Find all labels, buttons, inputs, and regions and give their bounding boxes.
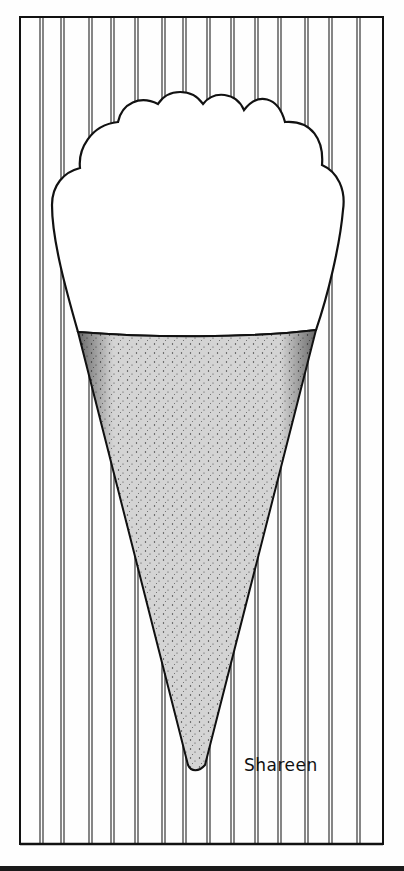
artist-signature: Shareen bbox=[244, 755, 318, 775]
bottom-border-bar bbox=[0, 866, 404, 871]
ice-cream-drawing bbox=[0, 0, 404, 871]
ice-cream-scoop bbox=[52, 92, 344, 336]
